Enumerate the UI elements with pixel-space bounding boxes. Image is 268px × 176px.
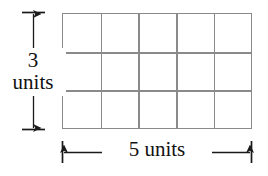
height-dimension-label: 3 units (0, 48, 66, 96)
width-dimension-label: 5 units (102, 139, 212, 161)
grid-hline-1 (63, 52, 251, 54)
grid-rectangle (62, 13, 252, 129)
grid-vline-2 (138, 14, 140, 128)
grid-vline-4 (214, 14, 216, 128)
height-unit: units (0, 72, 66, 94)
grid-vline-3 (176, 14, 178, 128)
grid-diagram: 3 units 5 units (0, 0, 268, 176)
grid-lines (63, 14, 251, 128)
grid-vline-1 (101, 14, 103, 128)
grid-hline-2 (63, 90, 251, 92)
height-value: 3 (0, 50, 66, 72)
